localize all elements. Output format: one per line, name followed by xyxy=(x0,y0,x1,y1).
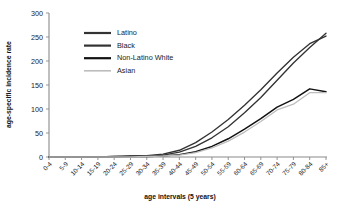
x-tick-label: 85+ xyxy=(317,160,330,173)
y-axis-group: 050100150200250300 xyxy=(31,9,49,162)
chart-legend: LatinoBlackNon-Latino WhiteAsian xyxy=(84,28,173,75)
series-line-asian xyxy=(49,93,326,157)
y-tick-label: 0 xyxy=(39,153,43,162)
legend-label: Black xyxy=(117,41,135,50)
chart-canvas: 050100150200250300 0-45-910-1415-1920-24… xyxy=(0,0,338,216)
x-tick-label: 50-54 xyxy=(199,160,216,177)
x-axis-ticks: 0-45-910-1415-1920-2425-2930-3435-3940-4… xyxy=(41,157,330,177)
x-tick-label: 40-44 xyxy=(167,160,184,177)
x-tick-label: 45-49 xyxy=(183,160,200,177)
x-axis-title: age intervals (5 years) xyxy=(144,193,215,201)
series-line-latino xyxy=(49,36,326,157)
x-axis-group: 0-45-910-1415-1920-2425-2930-3435-3940-4… xyxy=(41,157,330,177)
series-line-black xyxy=(49,33,326,157)
y-axis-ticks: 050100150200250300 xyxy=(31,9,49,162)
x-tick-label: 60-64 xyxy=(232,160,249,177)
legend-label: Asian xyxy=(117,66,135,75)
x-tick-label: 25-29 xyxy=(118,160,135,177)
x-tick-label: 5-9 xyxy=(58,160,70,172)
legend-label: Non-Latino White xyxy=(117,53,173,62)
x-tick-label: 55-59 xyxy=(216,160,233,177)
x-tick-label: 15-19 xyxy=(85,160,102,177)
x-tick-label: 65-69 xyxy=(248,160,265,177)
x-tick-label: 0-4 xyxy=(41,160,53,172)
x-tick-label: 10-14 xyxy=(69,160,86,177)
y-axis-title: age-specific incidence rate xyxy=(5,41,13,128)
y-tick-label: 150 xyxy=(31,81,43,90)
x-tick-label: 20-24 xyxy=(102,160,119,177)
x-tick-label: 70-74 xyxy=(265,160,282,177)
data-series-group xyxy=(49,33,326,157)
x-tick-label: 75-79 xyxy=(281,160,298,177)
x-tick-label: 80-84 xyxy=(297,160,314,177)
incidence-rate-line-chart: 050100150200250300 0-45-910-1415-1920-24… xyxy=(0,0,338,216)
x-tick-label: 35-39 xyxy=(150,160,167,177)
y-tick-label: 250 xyxy=(31,33,43,42)
x-tick-label: 30-34 xyxy=(134,160,151,177)
y-tick-label: 300 xyxy=(31,9,43,18)
y-tick-label: 200 xyxy=(31,57,43,66)
y-tick-label: 100 xyxy=(31,105,43,114)
y-tick-label: 50 xyxy=(35,129,43,138)
legend-label: Latino xyxy=(117,28,137,37)
